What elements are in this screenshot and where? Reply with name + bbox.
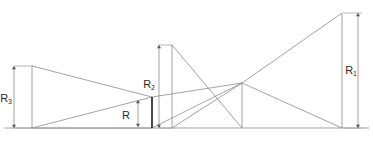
dimension-R1: R1 — [343, 13, 362, 128]
dimension-label-subscript-R2: 2 — [151, 83, 155, 90]
dimension-label-R2: R2 — [143, 78, 155, 91]
dimension-label-base-R3: R — [0, 92, 8, 104]
arrowhead-bottom-R1 — [356, 125, 360, 128]
diagram-canvas: R3RR2R1 — [0, 0, 373, 141]
dimension-label-R: R — [122, 109, 130, 121]
dimension-label-R3: R3 — [0, 92, 12, 105]
dimension-label-base-R: R — [122, 109, 130, 121]
dimension-annotations-group: R3RR2R1 — [0, 13, 362, 128]
dimension-R3: R3 — [0, 66, 33, 128]
technical-diagram: R3RR2R1 — [0, 0, 373, 141]
arrowhead-bottom-R3 — [12, 125, 16, 128]
crossing-to-right-bottom — [242, 83, 342, 128]
dimension-label-subscript-R3: 3 — [8, 97, 12, 104]
crossing-to-right-top — [242, 13, 342, 83]
arrowhead-top-R2 — [157, 45, 161, 48]
arrowhead-bottom-R2 — [157, 125, 161, 128]
dimension-label-R1: R1 — [345, 64, 357, 77]
left-upper-converging-edge — [32, 66, 152, 97]
dimension-label-base-R2: R — [143, 78, 151, 90]
geometry-segments-group — [32, 13, 342, 128]
dimension-R2: R2 — [143, 45, 173, 128]
dimension-label-subscript-R1: 1 — [353, 69, 357, 76]
arrowhead-bottom-R — [136, 124, 140, 127]
middle-apex-to-crossing-base — [172, 45, 242, 128]
dimension-label-base-R1: R — [345, 64, 353, 76]
arrowhead-top-R1 — [356, 13, 360, 16]
middle-base-to-crossing — [172, 83, 242, 128]
left-lower-converging-edge — [32, 97, 152, 128]
arrowhead-top-R3 — [12, 66, 16, 69]
